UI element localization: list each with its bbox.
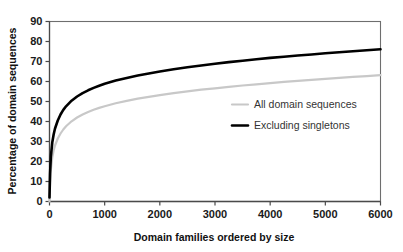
y-tick-label: 0 <box>36 195 42 207</box>
legend-label: All domain sequences <box>254 98 357 110</box>
y-tick-label: 70 <box>30 55 42 67</box>
chart-figure: 0102030405060708090 01000200030004000500… <box>0 0 403 252</box>
y-tick-label: 30 <box>30 135 42 147</box>
y-tick-label: 60 <box>30 75 42 87</box>
y-tick-label: 50 <box>30 95 42 107</box>
x-tick-label: 6000 <box>368 208 392 220</box>
x-tick-label: 2000 <box>148 208 172 220</box>
line-chart: 0102030405060708090 01000200030004000500… <box>0 0 403 252</box>
x-axis-title: Domain families ordered by size <box>134 231 295 243</box>
legend-label: Excluding singletons <box>254 119 350 131</box>
y-tick-label: 80 <box>30 35 42 47</box>
x-tick-label: 5000 <box>313 208 337 220</box>
x-tick-label: 3000 <box>203 208 227 220</box>
y-axis-title: Percentage of domain sequences <box>6 27 18 194</box>
x-tick-label: 4000 <box>258 208 282 220</box>
y-tick-label: 20 <box>30 155 42 167</box>
x-tick-label: 1000 <box>92 208 116 220</box>
y-tick-label: 90 <box>30 15 42 27</box>
x-tick-label: 0 <box>46 208 52 220</box>
y-tick-label: 10 <box>30 175 42 187</box>
y-tick-label: 40 <box>30 115 42 127</box>
